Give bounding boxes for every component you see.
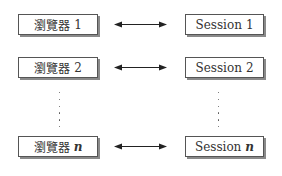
bidirectional-arrow-icon (114, 142, 167, 151)
bidirectional-arrow-icon (114, 63, 167, 72)
browser-number: n (74, 140, 83, 154)
browser-label: 瀏覽器 (34, 138, 70, 155)
session-box-n: Session n (185, 136, 264, 157)
vertical-ellipsis-icon (59, 92, 61, 133)
browser-box-1: 瀏覽器 1 (18, 14, 98, 35)
vertical-ellipsis-icon (218, 92, 220, 133)
session-number: 1 (246, 18, 254, 32)
browser-number: 1 (74, 18, 82, 32)
browser-box-2: 瀏覽器 2 (18, 57, 98, 78)
session-number: n (245, 140, 254, 154)
browser-number: 2 (74, 61, 82, 75)
bidirectional-arrow-icon (114, 20, 167, 29)
session-box-2: Session 2 (185, 57, 264, 78)
session-label: Session (195, 61, 241, 75)
session-number: 2 (246, 61, 254, 75)
browser-label: 瀏覽器 (34, 59, 70, 76)
session-label: Session (195, 18, 241, 32)
browser-box-n: 瀏覽器 n (18, 136, 98, 157)
session-label: Session (195, 140, 241, 154)
session-box-1: Session 1 (185, 14, 264, 35)
browser-label: 瀏覽器 (34, 16, 70, 33)
